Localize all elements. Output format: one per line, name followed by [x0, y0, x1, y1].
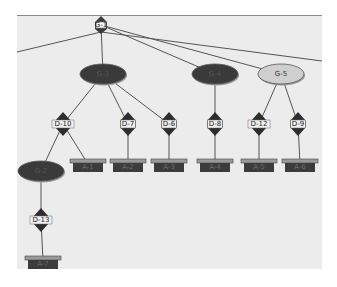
decision-node-d-10[interactable]: D-10 — [52, 112, 74, 136]
leaf-cap — [241, 159, 277, 163]
goal-node-g-2[interactable]: G-2 — [18, 161, 65, 183]
leaf-cap — [70, 159, 106, 163]
leaf-node[interactable]: A-4 — [197, 159, 233, 172]
decision-label: D-7 — [122, 120, 134, 128]
goal-node-g-5[interactable]: G-5 — [258, 64, 305, 86]
leaf-label: A-4 — [209, 163, 221, 171]
decision-label: D-8 — [209, 120, 221, 128]
decision-node-d-9[interactable]: D-9 — [290, 112, 306, 136]
leaf-cap — [197, 159, 233, 163]
leaf-label: A-2 — [122, 163, 134, 171]
goal-label: G-3 — [97, 70, 109, 78]
decision-node-d-6[interactable]: D-6 — [161, 112, 177, 136]
leaf-node[interactable]: A-3 — [151, 159, 187, 172]
goal-node-g-4[interactable]: G-4 — [192, 64, 239, 86]
root-node[interactable]: G-1 — [95, 16, 107, 34]
leaf-node[interactable]: A-2 — [110, 159, 146, 172]
edges — [17, 25, 322, 261]
goal-label: G-4 — [209, 70, 222, 78]
leaf-node[interactable]: A-5 — [241, 159, 277, 172]
leaf-label: A-7 — [37, 260, 49, 268]
decision-node-d-13[interactable]: D-13 — [30, 208, 52, 232]
edge-line — [101, 25, 281, 74]
tree-diagram: G-1G-3G-4G-5G-2D-10D-7D-6D-8D-12D-9D-13A… — [0, 0, 337, 287]
leaf-cap — [110, 159, 146, 163]
leaf-label: A-3 — [163, 163, 175, 171]
leaf-cap — [282, 159, 318, 163]
goal-label: G-2 — [35, 167, 47, 175]
decision-node-d-12[interactable]: D-12 — [248, 112, 270, 136]
leaf-node[interactable]: A-1 — [70, 159, 106, 172]
leaf-cap — [151, 159, 187, 163]
root-label: G-1 — [95, 21, 107, 29]
decision-label: D-9 — [292, 120, 304, 128]
edge-line — [101, 32, 322, 61]
leaf-cap — [25, 256, 61, 260]
goal-node-g-3[interactable]: G-3 — [80, 64, 127, 86]
leaf-node[interactable]: A-7 — [25, 256, 61, 269]
decision-label: D-10 — [55, 120, 72, 128]
decision-node-d-8[interactable]: D-8 — [207, 112, 223, 136]
leaf-node[interactable]: A-6 — [282, 159, 318, 172]
decision-node-d-7[interactable]: D-7 — [120, 112, 136, 136]
leaf-label: A-1 — [82, 163, 94, 171]
leaf-label: A-6 — [294, 163, 306, 171]
goal-label: G-5 — [275, 70, 287, 78]
decision-label: D-13 — [33, 216, 50, 224]
decision-label: D-12 — [251, 120, 268, 128]
leaf-label: A-5 — [253, 163, 265, 171]
edge-line — [17, 32, 101, 52]
decision-label: D-6 — [163, 120, 176, 128]
